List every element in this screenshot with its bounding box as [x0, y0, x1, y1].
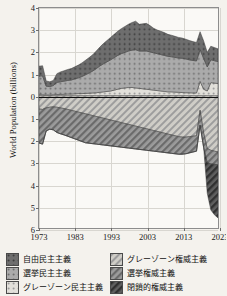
y-tick-mark — [36, 208, 39, 209]
y-tick-label: 2 — [31, 136, 35, 146]
legend-swatch-hatch-mid — [110, 267, 123, 280]
legend-label: グレーゾーン権威主義 — [127, 254, 207, 265]
y-tick-mark — [36, 163, 39, 164]
chart-figure: World Population (billions) — [0, 0, 226, 296]
legend-label: グレーゾーン民主主義 — [23, 282, 103, 293]
y-tick-label: 1 — [31, 114, 35, 124]
y-tick-mark — [36, 52, 39, 53]
gridline-vertical — [220, 8, 221, 228]
y-tick-mark — [36, 97, 39, 98]
gridline-horizontal — [39, 230, 218, 231]
x-tick-label: 2013 — [175, 232, 192, 242]
legend-label: 選挙民主主義 — [23, 268, 71, 279]
x-tick-mark — [111, 228, 112, 231]
legend-item[interactable]: 閉鎖的権威主義 — [110, 281, 220, 294]
y-tick-mark — [36, 141, 39, 142]
y-tick-mark — [36, 186, 39, 187]
y-tick-mark — [36, 75, 39, 76]
x-tick-mark — [184, 228, 185, 231]
x-tick-mark — [148, 228, 149, 231]
legend-item[interactable]: 自由民主主義 — [6, 253, 110, 266]
x-tick-mark — [39, 228, 40, 231]
legend-swatch-dots-light — [6, 281, 19, 294]
x-tick-label: 2003 — [139, 232, 156, 242]
x-tick-label: 1973 — [31, 232, 48, 242]
y-tick-mark — [36, 8, 39, 9]
plot-area: 43210123456197319831993200320132023 — [38, 7, 219, 229]
y-tick-label: 0 — [31, 92, 35, 102]
legend-item[interactable]: 選挙権威主義 — [110, 267, 220, 280]
legend-label: 自由民主主義 — [23, 254, 71, 265]
legend-label: 閉鎖的権威主義 — [127, 282, 183, 293]
y-tick-label: 5 — [31, 203, 35, 213]
zero-axis-line — [39, 97, 218, 98]
x-tick-label: 1993 — [103, 232, 120, 242]
legend-swatch-hatch-light — [110, 253, 123, 266]
chart-legend: 自由民主主義グレーゾーン権威主義選挙民主主義選挙権威主義グレーゾーン民主主義閉鎖… — [6, 252, 220, 294]
x-tick-mark — [75, 228, 76, 231]
area-series-layer — [39, 8, 218, 228]
y-tick-mark — [36, 119, 39, 120]
y-tick-label: 3 — [31, 25, 35, 35]
x-tick-label: 1983 — [67, 232, 84, 242]
legend-item[interactable]: 選挙民主主義 — [6, 267, 110, 280]
y-tick-label: 3 — [31, 158, 35, 168]
x-tick-label: 2023 — [212, 232, 227, 242]
legend-swatch-hatch-dark — [110, 281, 123, 294]
legend-swatch-dots-dark — [6, 253, 19, 266]
y-tick-label: 1 — [31, 70, 35, 80]
y-tick-mark — [36, 30, 39, 31]
x-tick-mark — [220, 228, 221, 231]
legend-item[interactable]: グレーゾーン権威主義 — [110, 253, 220, 266]
legend-label: 選挙権威主義 — [127, 268, 175, 279]
y-tick-label: 2 — [31, 47, 35, 57]
y-axis-title: World Population (billions) — [8, 35, 18, 185]
y-tick-label: 4 — [31, 3, 35, 13]
y-tick-label: 4 — [31, 181, 35, 191]
legend-swatch-dots-mid — [6, 267, 19, 280]
legend-item[interactable]: グレーゾーン民主主義 — [6, 281, 110, 294]
